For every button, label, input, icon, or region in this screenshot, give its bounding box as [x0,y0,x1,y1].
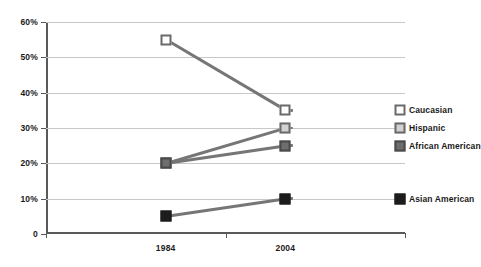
data-point-asian-american-1984 [160,211,171,222]
legend-marker-caucasian [395,105,406,116]
gridline-40 [46,93,405,94]
y-tick-20 [41,163,46,164]
legend-marker-hispanic [395,123,406,134]
y-tick-40 [41,93,46,94]
gridline-60 [46,22,405,23]
data-point-african-american-1984 [160,158,171,169]
series-line-african-american [165,144,285,164]
y-tick-10 [41,199,46,200]
gridline-10 [46,199,405,200]
legend-label-hispanic: Hispanic [409,123,445,133]
y-tick-label-60: 60% [20,17,38,27]
y-tick-60 [41,22,46,23]
y-tick-label-40: 40% [20,88,38,98]
data-point-african-american-2004 [280,140,291,151]
y-tick-50 [41,57,46,58]
data-point-hispanic-2004 [280,123,291,134]
y-tick-label-50: 50% [20,52,38,62]
legend-label-african-american: African American [409,141,481,151]
x-tick-0 [46,233,47,238]
x-tick-1 [226,233,227,238]
y-tick-label-30: 30% [20,123,38,133]
gridline-50 [46,57,405,58]
data-point-asian-american-2004 [280,193,291,204]
gridline-30 [46,128,405,129]
x-tick-2 [405,233,406,238]
plot-area: 010%20%30%40%50%60%19842004 [46,22,405,234]
data-point-caucasian-2004 [280,105,291,116]
legend-marker-african-american [395,140,406,151]
legend-label-caucasian: Caucasian [409,105,452,115]
y-tick-label-10: 10% [20,194,38,204]
data-point-caucasian-1984 [160,34,171,45]
y-tick-30 [41,128,46,129]
y-tick-label-20: 20% [20,158,38,168]
legend-label-asian-american: Asian American [409,194,474,204]
gridline-20 [46,163,405,164]
y-tick-label-0: 0 [33,229,38,239]
series-line-caucasian [165,39,286,112]
legend-marker-asian-american [395,193,406,204]
x-axis-label-1984: 1984 [156,243,176,253]
x-axis-label-2004: 2004 [275,243,295,253]
series-line-asian-american [165,197,285,217]
